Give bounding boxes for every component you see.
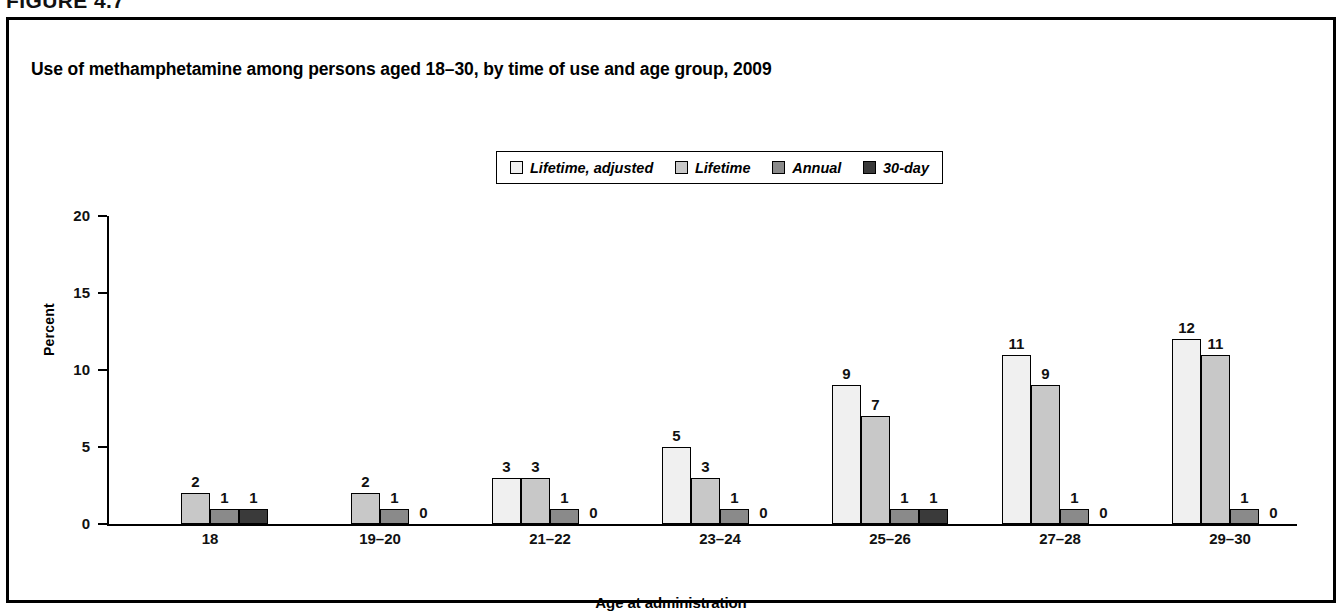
bar-slot: 3: [492, 216, 521, 524]
legend-swatch-icon: [863, 161, 876, 174]
bar-slot: 0: [749, 216, 778, 524]
bar-group: 971125–26: [832, 214, 948, 524]
bar-slot: 0: [1259, 216, 1288, 524]
bar-slot: 12: [1172, 216, 1201, 524]
y-axis-tick: [98, 523, 107, 525]
y-axis-title: Percent: [41, 303, 57, 356]
y-axis-tick-label: 5: [50, 438, 90, 455]
x-axis-group-label: 23–24: [640, 530, 800, 547]
bar-slot: 0: [1089, 216, 1118, 524]
plot-area: 051015202111821019–20331021–22531023–249…: [107, 216, 1297, 526]
x-axis-group-label: 25–26: [810, 530, 970, 547]
bar: [239, 509, 268, 524]
bar: [1172, 339, 1201, 524]
legend-item: Lifetime, adjusted: [510, 160, 653, 176]
bar-value-label: 0: [744, 504, 784, 521]
bar-slot: 3: [691, 216, 720, 524]
y-axis-tick: [98, 292, 107, 294]
y-axis-line: [107, 216, 109, 526]
bar-slot: 1: [380, 216, 409, 524]
figure-number: FIGURE 4.7: [6, 0, 124, 13]
bar-value-label: 0: [1084, 504, 1124, 521]
bar-slot: 1: [239, 216, 268, 524]
figure-title: Use of methamphetamine among persons age…: [31, 59, 772, 80]
legend-label: Annual: [792, 160, 841, 176]
bar-group: 1191027–28: [1002, 214, 1118, 524]
bar-group: 21118: [152, 214, 268, 524]
x-axis-group-label: 27–28: [980, 530, 1140, 547]
bar-slot: 0: [579, 216, 608, 524]
bar-group: 21019–20: [322, 214, 438, 524]
y-axis-tick-label: 15: [50, 284, 90, 301]
bar-slot: 1: [550, 216, 579, 524]
legend-swatch-icon: [772, 161, 785, 174]
bar-slot: 2: [351, 216, 380, 524]
legend-item: 30-day: [863, 160, 929, 176]
figure-frame: Use of methamphetamine among persons age…: [6, 17, 1336, 603]
legend-item: Annual: [772, 160, 841, 176]
bar-value-label: 0: [1254, 504, 1294, 521]
bar-slot: 1: [1230, 216, 1259, 524]
bar-slot: 1: [890, 216, 919, 524]
x-axis-group-label: 29–30: [1150, 530, 1310, 547]
y-axis-tick: [98, 369, 107, 371]
bar-value-label: 0: [404, 504, 444, 521]
bar-slot: 2: [181, 216, 210, 524]
bar-group: 531023–24: [662, 214, 778, 524]
y-axis-tick-label: 0: [50, 515, 90, 532]
y-axis-tick-label: 20: [50, 207, 90, 224]
bar-slot: 0: [409, 216, 438, 524]
bar: [861, 416, 890, 524]
bar: [492, 478, 521, 524]
x-axis-group-label: 19–20: [300, 530, 460, 547]
bar-slot: 1: [919, 216, 948, 524]
legend-label: 30-day: [883, 160, 929, 176]
bar-slot: 1: [1060, 216, 1089, 524]
bar-slot: 1: [720, 216, 749, 524]
y-axis-tick-label: 10: [50, 361, 90, 378]
bar-slot: 7: [861, 216, 890, 524]
y-axis-tick: [98, 446, 107, 448]
y-axis-tick: [98, 215, 107, 217]
bar: [890, 509, 919, 524]
chart-legend: Lifetime, adjustedLifetimeAnnual30-day: [496, 151, 943, 184]
x-axis-title: Age at administration: [9, 594, 1333, 611]
legend-item: Lifetime: [675, 160, 751, 176]
bar-slot: 3: [521, 216, 550, 524]
x-axis-line: [107, 524, 1297, 526]
bar-slot: 1: [210, 216, 239, 524]
bar-value-label: 1: [234, 489, 274, 506]
bar-value-label: 0: [574, 504, 614, 521]
bar: [210, 509, 239, 524]
bar-slot: 5: [662, 216, 691, 524]
bar-slot: 9: [1031, 216, 1060, 524]
bar-group: 12111029–30: [1172, 214, 1288, 524]
x-axis-group-label: 21–22: [470, 530, 630, 547]
legend-label: Lifetime, adjusted: [530, 160, 653, 176]
bar-value-label: 1: [914, 489, 954, 506]
legend-swatch-icon: [675, 161, 688, 174]
bar-slot: 11: [1201, 216, 1230, 524]
bar: [919, 509, 948, 524]
x-axis-group-label: 18: [130, 530, 290, 547]
legend-label: Lifetime: [695, 160, 751, 176]
legend-swatch-icon: [510, 161, 523, 174]
bar-group: 331021–22: [492, 214, 608, 524]
bar-slot: 9: [832, 216, 861, 524]
